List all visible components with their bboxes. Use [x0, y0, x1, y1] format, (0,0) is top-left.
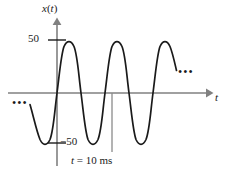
t-marker-label: t = 10 ms: [71, 155, 112, 166]
t-axis-arrowhead: [206, 89, 214, 98]
waveform-figure: x(t) t 50 −50 t = 10 ms ••• •••: [0, 0, 225, 175]
y-axis-label: x(t): [42, 3, 57, 14]
t-axis: [8, 89, 214, 98]
ellipsis-left: •••: [12, 97, 28, 109]
y-axis-label-var: t: [51, 2, 54, 14]
t-axis-label: t: [215, 92, 218, 103]
y-axis-arrowhead: [53, 18, 62, 26]
plot-canvas: [0, 0, 225, 175]
t-marker-label-rest: = 10 ms: [74, 154, 112, 166]
ellipsis-right: •••: [178, 66, 194, 78]
y-tick-label-plus-50: 50: [28, 33, 39, 44]
y-tick-label-minus-50: −50: [60, 136, 77, 147]
